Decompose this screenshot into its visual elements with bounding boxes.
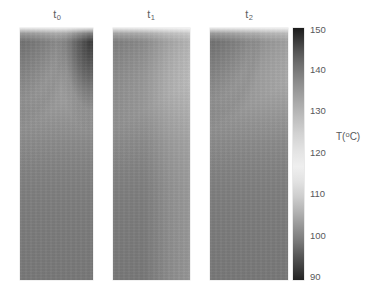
colorbar-axis-label-suffix: C) — [350, 131, 361, 142]
heatmap-t1-hot-cap — [113, 28, 190, 280]
colorbar-tick-90: 90 — [310, 272, 321, 282]
panel-title-t2: t2 — [229, 9, 269, 20]
heatmap-t2-hot-cap — [210, 28, 288, 280]
heatmap-panel-t2 — [210, 28, 288, 280]
degree-icon: o — [345, 130, 349, 139]
colorbar-tick-140: 140 — [310, 65, 326, 75]
colorbar-tick-120: 120 — [310, 148, 326, 158]
heatmap-panel-t0 — [20, 28, 93, 280]
panel-title-t2-text: t — [245, 8, 248, 20]
thermal-heatmap-figure: t0 t1 t2 150 140 130 120 — [0, 0, 384, 298]
panel-title-t1-text: t — [147, 8, 150, 20]
heatmap-t0-hot-cap — [20, 28, 93, 280]
panel-title-t1-subscript: 1 — [151, 13, 155, 22]
panel-title-t0: t0 — [37, 9, 77, 20]
heatmap-panel-t1 — [113, 28, 190, 280]
panel-title-t2-subscript: 2 — [249, 13, 253, 22]
colorbar-axis-label: T(oC) — [336, 130, 360, 142]
panel-title-t0-subscript: 0 — [57, 13, 61, 22]
colorbar — [293, 28, 304, 280]
colorbar-tick-130: 130 — [310, 106, 326, 116]
colorbar-tick-150: 150 — [310, 25, 326, 35]
colorbar-tick-110: 110 — [310, 189, 325, 199]
colorbar-gradient — [293, 28, 304, 280]
panel-title-t0-text: t — [53, 8, 56, 20]
colorbar-tick-100: 100 — [310, 231, 326, 241]
panel-title-t1: t1 — [131, 9, 171, 20]
